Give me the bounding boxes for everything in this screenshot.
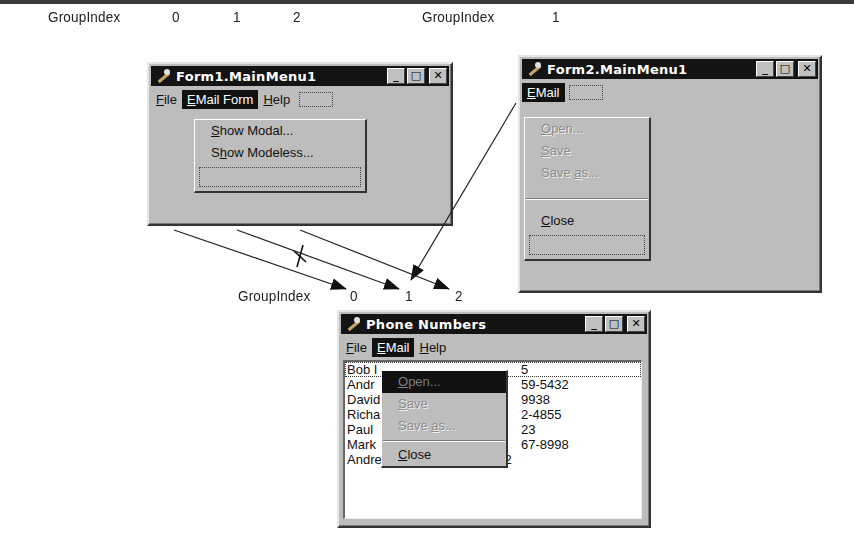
- arrow-form2-group-1: [411, 103, 516, 280]
- merge-arrows: [0, 0, 854, 560]
- blocked-x-icon: [294, 245, 306, 267]
